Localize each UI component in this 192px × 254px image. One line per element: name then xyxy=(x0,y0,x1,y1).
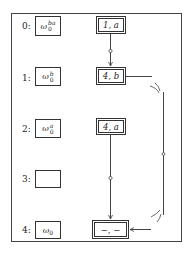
state-label: −, − xyxy=(94,222,127,237)
row-index-3: 3: xyxy=(22,174,31,184)
break-mark xyxy=(150,86,159,93)
break-mark xyxy=(155,83,160,91)
state-label: 1, a xyxy=(98,18,124,32)
state-box-1: 4, b xyxy=(96,67,126,85)
history-sub: 0 xyxy=(48,26,55,32)
history-base: ω xyxy=(42,124,49,133)
state-box-2: 4, a xyxy=(96,118,126,135)
history-sub: 0 xyxy=(50,77,54,83)
history-box-1: ω b0 xyxy=(35,67,61,86)
state-box-0: 1, a xyxy=(96,16,126,34)
history-sub: 0 xyxy=(50,129,54,135)
state-label: 4, b xyxy=(98,69,124,83)
row-index-4: 4: xyxy=(22,225,31,235)
edge-midpoint-circle xyxy=(109,176,112,179)
history-box-4: ω0 xyxy=(35,221,61,239)
row-index-0: 0: xyxy=(22,21,31,31)
state-box-4: −, − xyxy=(92,220,129,239)
break-mark xyxy=(157,214,161,222)
edge-midpoint-circle xyxy=(109,49,112,52)
break-mark xyxy=(151,210,160,217)
history-sub: 0 xyxy=(49,229,53,236)
history-base: ω xyxy=(42,72,49,81)
history-base: ω xyxy=(41,22,48,31)
state-label: 4, a xyxy=(98,120,124,133)
history-box-2: ω a0 xyxy=(35,119,61,138)
row-index-2: 2: xyxy=(22,124,31,134)
row-index-1: 1: xyxy=(22,73,31,83)
edge-midpoint-circle xyxy=(162,153,165,156)
history-box-0: ω ba0 xyxy=(35,16,61,36)
history-box-3-empty xyxy=(35,170,61,188)
